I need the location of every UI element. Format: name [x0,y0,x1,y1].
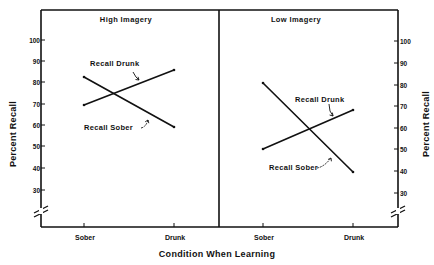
tick-label-50: 50 [33,143,41,150]
left-y-axis-title: Percent Recall [8,101,18,167]
axis-break-gap-left [39,208,43,214]
tick-label-60: 60 [33,122,41,129]
tick-label-60-right: 60 [400,125,408,132]
arrow-recall-drunk-high [133,72,139,80]
x-tick-labels: Sober Drunk Sober Drunk [75,234,364,241]
panel-title-low-imagery: Low Imagery [271,15,322,24]
label-recall-drunk-low: Recall Drunk [295,95,345,104]
tick-label-100-right: 100 [400,38,411,45]
tick-label-30-right: 30 [400,190,408,197]
chart-canvas: 100 90 80 70 60 50 40 30 100 90 80 70 60… [0,0,434,265]
tick-label-50-right: 50 [400,146,408,153]
x-label-drunk-left: Drunk [165,234,185,241]
x-label-sober-left: Sober [75,234,95,241]
right-y-tick-labels: 100 90 80 70 60 50 40 30 [400,38,411,197]
panel-title-high-imagery: High Imagery [100,15,153,24]
tick-label-100: 100 [29,37,40,44]
line-recall-drunk-low [263,110,353,149]
line-recall-sober-high [84,77,174,127]
tick-label-40: 40 [33,165,41,172]
tick-label-70: 70 [33,101,41,108]
x-label-sober-right: Sober [254,234,274,241]
tick-label-80-right: 80 [400,82,408,89]
tick-label-90: 90 [33,58,41,65]
tick-label-80: 80 [33,79,41,86]
tick-label-70-right: 70 [400,103,408,110]
tick-label-30: 30 [33,187,41,194]
axis-break-gap-right [396,208,400,214]
label-recall-sober-low: Recall Sober [269,163,318,172]
label-recall-drunk-high: Recall Drunk [90,59,140,68]
chart-frame [41,10,398,227]
label-recall-sober-high: Recall Sober [84,123,133,132]
left-y-tick-labels: 100 90 80 70 60 50 40 30 [29,37,40,194]
x-label-drunk-right: Drunk [344,234,364,241]
right-y-axis-title: Percent Recall [421,91,431,157]
tick-label-40-right: 40 [400,168,408,175]
line-recall-drunk-high [84,70,174,105]
tick-label-90-right: 90 [400,60,408,67]
x-axis-title: Condition When Learning [159,249,275,259]
high-imagery-series [84,70,174,127]
